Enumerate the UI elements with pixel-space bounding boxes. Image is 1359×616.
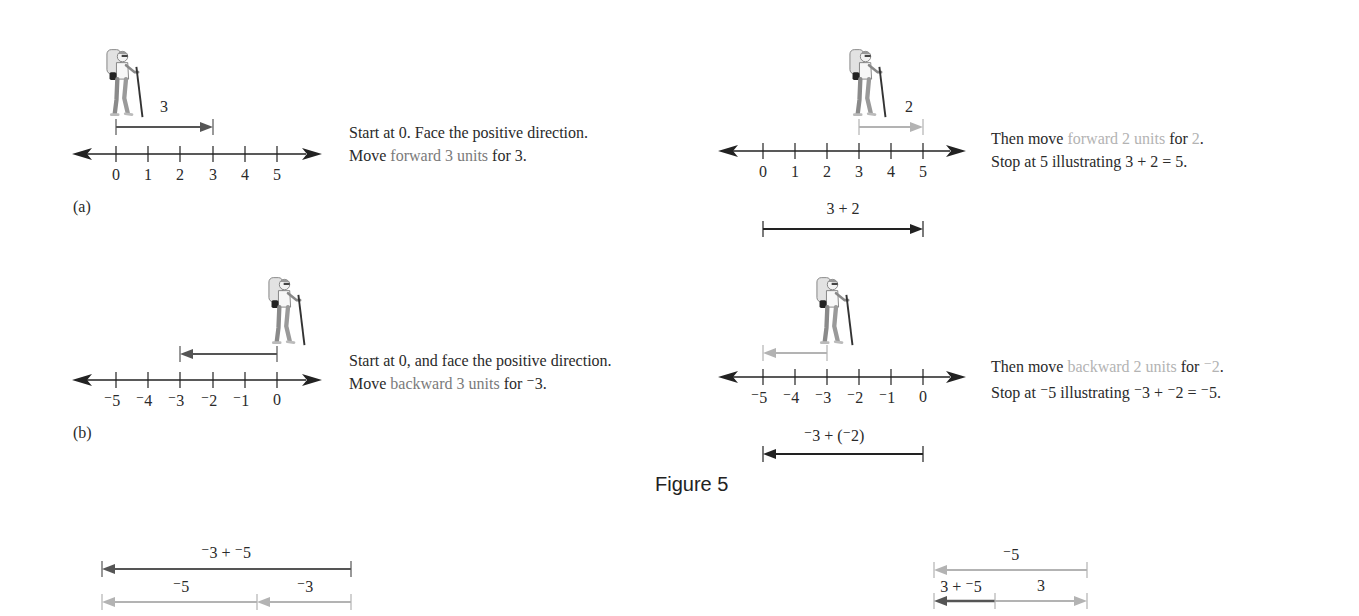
tick-label: 3	[209, 166, 217, 184]
seg-label: 3	[1037, 577, 1045, 595]
caption-line: Start at 0, and face the positive direct…	[349, 349, 612, 372]
total-label: ⁻3 + ⁻5	[201, 543, 251, 562]
number-line-b-left	[72, 372, 322, 388]
bottom-left-diagram	[102, 561, 351, 610]
tick-label: ⁻3	[815, 388, 831, 407]
tick-label: 0	[759, 163, 767, 181]
caption-text: Then move	[991, 130, 1067, 147]
top-arrow-neg5	[934, 562, 1087, 578]
caption-b-right: Then move backward 2 units for ⁻2. Stop …	[991, 355, 1224, 404]
caption-highlight: 2	[1192, 130, 1200, 147]
result-label: 3 + ⁻5	[940, 577, 981, 596]
hiker-icon	[107, 50, 143, 118]
caption-line: Move backward 3 units for ⁻3.	[349, 372, 612, 395]
caption-line: Stop at 5 illustrating 3 + 2 = 5.	[991, 150, 1204, 173]
panel-a-left	[72, 50, 322, 162]
caption-a-right: Then move forward 2 units for 2. Stop at…	[991, 127, 1204, 173]
tick-label: 3	[855, 163, 863, 181]
tick-label: ⁻1	[879, 388, 895, 407]
move-arrow-backward-2	[763, 345, 827, 361]
move-arrow-forward-3	[116, 119, 213, 135]
sum-label: ⁻3 + (⁻2)	[804, 426, 865, 445]
move-arrow-backward-3	[180, 346, 277, 362]
hiker-icon	[269, 278, 305, 346]
caption-line: Then move forward 2 units for 2.	[991, 127, 1204, 150]
seg-label: ⁻3	[297, 577, 313, 596]
tick-label: 4	[887, 163, 895, 181]
caption-text: .	[1220, 358, 1224, 375]
sum-label: 3 + 2	[826, 200, 859, 218]
seg-arrow-neg5	[102, 594, 257, 610]
number-line-a-right	[718, 143, 966, 159]
tick-label: ⁻1	[233, 391, 249, 410]
top-label: ⁻5	[1003, 545, 1019, 564]
tick-label: 1	[144, 166, 152, 184]
caption-text: for	[1165, 130, 1192, 147]
move-label: 3	[160, 98, 168, 116]
caption-line: Move forward 3 units for 3.	[349, 144, 588, 167]
tick-label: 0	[273, 391, 281, 409]
caption-highlight: ⁻2	[1203, 358, 1219, 375]
diagram-canvas	[0, 0, 1359, 616]
move-arrow-forward-2	[859, 119, 923, 135]
seg-arrow-neg3	[257, 594, 351, 610]
tick-label: 0	[112, 166, 120, 184]
move-label: 2	[905, 98, 913, 116]
caption-text: Then move	[991, 358, 1067, 375]
caption-highlight: forward 2 units	[1067, 130, 1165, 147]
caption-text: Move	[349, 375, 390, 392]
caption-highlight: backward 2 units	[1067, 358, 1176, 375]
figure-title: Figure 5	[655, 473, 728, 496]
panel-label-b: (b)	[73, 424, 92, 442]
tick-label: ⁻2	[201, 391, 217, 410]
tick-label: ⁻3	[168, 391, 184, 410]
hiker-icon	[850, 50, 886, 118]
caption-text: for	[1177, 358, 1204, 375]
tick-label: 5	[919, 163, 927, 181]
panel-b-left	[72, 278, 322, 388]
caption-highlight: forward 3 units	[390, 147, 488, 164]
tick-label: 4	[241, 166, 249, 184]
caption-highlight: backward 3 units	[390, 375, 499, 392]
total-arrow-neg3-plus-neg5	[102, 561, 351, 577]
sum-arrow-neg3-plus-neg2	[763, 446, 923, 462]
caption-text: Move	[349, 147, 390, 164]
caption-text: for ⁻3.	[500, 375, 547, 392]
tick-label: 0	[919, 388, 927, 406]
seg-arrow-3	[995, 593, 1087, 609]
caption-text: .	[1200, 130, 1204, 147]
caption-a-left: Start at 0. Face the positive direction.…	[349, 121, 588, 167]
tick-label: ⁻5	[104, 391, 120, 410]
tick-label: 2	[823, 163, 831, 181]
caption-line: Start at 0. Face the positive direction.	[349, 121, 588, 144]
caption-line: Stop at ⁻5 illustrating ⁻3 + ⁻2 = ⁻5.	[991, 381, 1224, 404]
tick-label: 2	[176, 166, 184, 184]
caption-b-left: Start at 0, and face the positive direct…	[349, 349, 612, 395]
number-line-a-left	[72, 146, 322, 162]
number-line-b-right	[718, 369, 966, 385]
tick-label: ⁻5	[751, 388, 767, 407]
tick-label: 5	[273, 166, 281, 184]
sum-arrow-3-plus-2	[763, 221, 923, 237]
tick-label: 1	[791, 163, 799, 181]
tick-label: ⁻4	[783, 388, 799, 407]
caption-text: for 3.	[488, 147, 527, 164]
hiker-icon	[817, 278, 853, 346]
tick-label: ⁻4	[136, 391, 152, 410]
panel-label-a: (a)	[73, 198, 91, 216]
caption-line: Then move backward 2 units for ⁻2.	[991, 355, 1224, 378]
tick-label: ⁻2	[847, 388, 863, 407]
seg-label: ⁻5	[173, 577, 189, 596]
